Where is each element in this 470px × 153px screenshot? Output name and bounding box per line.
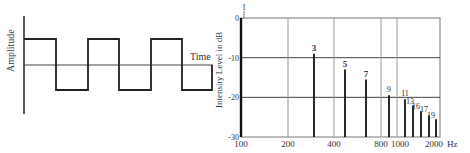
x-tick-label: 100 xyxy=(234,139,248,149)
time-label: Time xyxy=(190,51,211,62)
harmonic-label: 9 xyxy=(387,85,391,94)
y-tick-label: 0 xyxy=(235,14,239,23)
x-tick-label: 200 xyxy=(281,139,295,149)
harmonic-label: 7 xyxy=(364,69,369,79)
y-tick-label: -20 xyxy=(228,93,239,102)
square-wave-plot: Amplitude Time xyxy=(5,16,213,114)
spectrum-plot: Intensity Level in dB 35791113161719 0-1… xyxy=(214,3,458,149)
plot-frame xyxy=(241,18,440,137)
harmonic-label: 19 xyxy=(427,111,435,120)
harmonic-label: 16 xyxy=(412,102,420,111)
x-tick-label: 400 xyxy=(327,139,341,149)
harmonic-label: 3 xyxy=(312,43,317,53)
harmonic-bars: 35791113161719 xyxy=(241,18,436,137)
x-tick-label: 2000 xyxy=(425,139,444,149)
intensity-label: Intensity Level in dB xyxy=(214,32,224,108)
y-tick-label: -10 xyxy=(228,54,239,63)
figure: Amplitude Time Intensity Level in dB 357… xyxy=(0,0,470,153)
axis-ticks: 0-10-20-30110020040080010002000Hz xyxy=(228,3,457,149)
grid-lines xyxy=(241,18,440,137)
harmonic-label: 5 xyxy=(343,59,348,69)
amplitude-label: Amplitude xyxy=(5,29,16,72)
x-unit-label: Hz xyxy=(447,139,458,149)
x-tick-label: 1000 xyxy=(391,139,410,149)
x-tick-label: 800 xyxy=(374,139,388,149)
top-marker: 1 xyxy=(242,3,246,12)
